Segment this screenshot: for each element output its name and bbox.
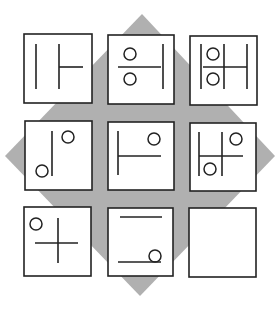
matrix-puzzle [0, 0, 278, 311]
puzzle-canvas [0, 0, 278, 311]
answer-cell-empty[interactable] [189, 208, 256, 277]
cell-frame [25, 121, 92, 190]
cell-r2c1 [25, 121, 92, 190]
cell-r2c3 [190, 123, 256, 191]
cell-frame [24, 34, 92, 103]
cell-r3c2 [108, 208, 173, 276]
cell-r1c2 [108, 35, 174, 104]
cell-r1c1 [24, 34, 92, 103]
cell-r3c1 [24, 207, 91, 276]
cell-frame [108, 208, 173, 276]
cell-frame [108, 35, 174, 104]
cell-frame [189, 208, 256, 277]
cell-frame [190, 123, 256, 191]
cell-r2c2 [108, 122, 174, 190]
cell-r1c3 [190, 36, 257, 105]
cell-grid [24, 34, 257, 277]
